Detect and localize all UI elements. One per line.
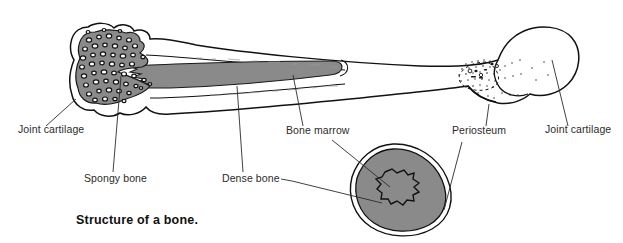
leader-periosteum-up	[486, 104, 489, 126]
label-bone-marrow: Bone marrow	[286, 124, 350, 136]
cross-section	[350, 144, 451, 236]
leader-dense-bone-up	[237, 86, 243, 172]
labels: Joint cartilage Spongy bone Dense bone B…	[18, 123, 611, 184]
bone-diagram-page: Joint cartilage Spongy bone Dense bone B…	[0, 0, 623, 243]
leader-bone-marrow-up	[293, 75, 303, 126]
label-joint-cartilage-right: Joint cartilage	[545, 123, 611, 135]
label-dense-bone: Dense bone	[222, 172, 280, 184]
figure-caption: Structure of a bone.	[76, 213, 198, 227]
bone-structure-figure: Joint cartilage Spongy bone Dense bone B…	[0, 0, 623, 243]
bone-head-separation-line	[494, 60, 528, 96]
long-bone	[70, 23, 579, 116]
left-epiphysis	[76, 29, 152, 105]
label-periosteum: Periosteum	[452, 124, 506, 136]
label-spongy-bone: Spongy bone	[84, 172, 147, 184]
label-joint-cartilage-left: Joint cartilage	[18, 123, 84, 135]
leader-joint-cartilage-left	[46, 99, 76, 126]
